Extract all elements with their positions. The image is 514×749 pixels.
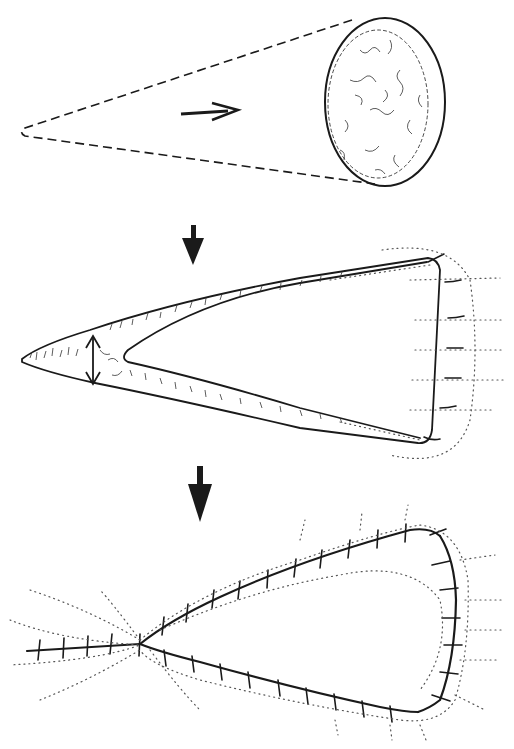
- stage-3-dotted-outlines: [10, 505, 505, 740]
- wound-tissue-texture: [30, 272, 342, 423]
- down-arrow-icon: [188, 466, 212, 522]
- down-arrow-icon: [182, 225, 204, 265]
- wound-outer-edge: [22, 258, 440, 443]
- tissue-oval: [325, 18, 445, 186]
- surgical-diagram: [0, 0, 514, 749]
- cone-outline-dashed: [22, 20, 376, 184]
- closure-lower-edge: [140, 644, 418, 712]
- closure-upper-edge: [140, 529, 440, 644]
- width-double-arrow-icon: [86, 336, 100, 384]
- stage-3-closure: [10, 505, 505, 740]
- stage-1-cone: [22, 18, 446, 186]
- tissue-texture: [340, 40, 422, 174]
- base-sutures: [424, 254, 464, 440]
- stage-2-triangle: [22, 248, 505, 458]
- closure-right-edge: [418, 536, 456, 712]
- direction-arrow-right-icon: [181, 103, 238, 120]
- wound-inner-edge: [124, 262, 427, 438]
